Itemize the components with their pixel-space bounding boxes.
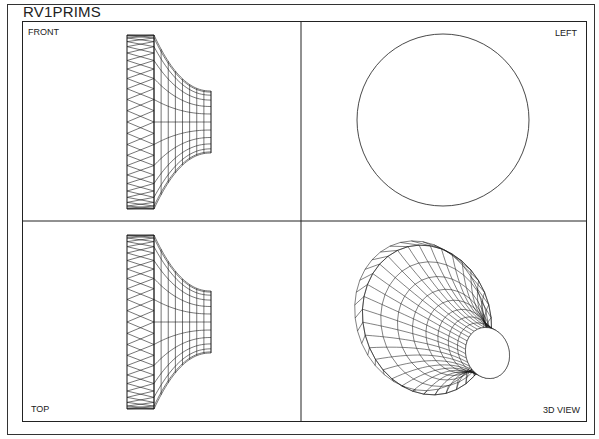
- front-view-wireframe: [127, 35, 211, 209]
- viewport-label-top: TOP: [31, 404, 49, 414]
- drawing-canvas: [0, 0, 599, 439]
- viewport-label-3d: 3D VIEW: [543, 405, 580, 415]
- left-view-circle: [357, 34, 529, 206]
- viewport-label-left: LEFT: [555, 28, 577, 38]
- 3d-view-wireframe: [355, 241, 510, 395]
- viewport-label-front: FRONT: [28, 27, 59, 37]
- top-view-wireframe: [127, 235, 211, 409]
